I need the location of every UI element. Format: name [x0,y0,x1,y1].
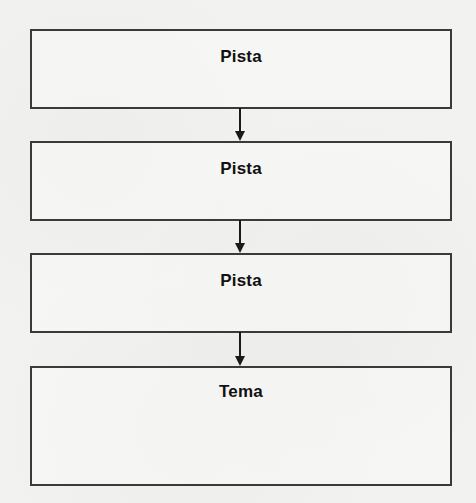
flowchart-node-clue-1: Pista [30,29,452,109]
arrow-down-icon [238,220,242,253]
node-label: Pista [32,271,450,291]
flowchart-node-clue-2: Pista [30,141,452,221]
node-label: Pista [32,159,450,179]
flowchart-node-clue-3: Pista [30,253,452,333]
node-label: Tema [32,382,450,402]
flowchart-node-theme: Tema [30,366,452,486]
node-label: Pista [32,47,450,67]
arrow-down-icon [238,108,242,141]
arrow-down-icon [238,332,242,366]
